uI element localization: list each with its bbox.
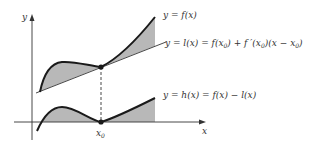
shaded-region-f-minus-l-right	[101, 17, 155, 67]
h-zero-point	[98, 119, 103, 124]
x0-label: x0	[96, 128, 105, 139]
label-f: y = f(x)	[162, 10, 197, 20]
x-axis-label: x	[202, 126, 207, 136]
y-axis-label: y	[21, 12, 28, 22]
label-h: y = h(x) = f(x) − l(x)	[162, 90, 257, 100]
tangent-point	[98, 64, 103, 69]
x-axis-arrow-icon	[199, 120, 206, 125]
label-l: y = l(x) = f(x0) + f ′(x0)(x − x0)	[164, 38, 303, 49]
y-axis-arrow-icon	[30, 14, 35, 21]
taylor-linear-approximation-diagram: y x x0 y = f(x) y = l(x) = f(x0) + f ′(x…	[0, 0, 320, 146]
